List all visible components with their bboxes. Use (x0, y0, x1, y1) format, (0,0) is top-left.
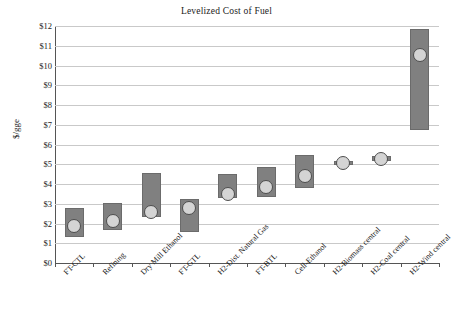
x-axis-tick (55, 263, 56, 267)
x-axis-tick (362, 263, 363, 267)
y-axis-tick-label: $1 (18, 239, 52, 248)
gridline (55, 85, 439, 86)
y-axis-tick-label: $5 (18, 160, 52, 169)
gridline (55, 184, 439, 185)
range-bar[interactable] (410, 29, 429, 130)
y-axis-tick-label: $9 (18, 81, 52, 90)
central-estimate-marker[interactable] (413, 48, 427, 62)
gridline (55, 243, 439, 244)
y-axis-tick-label: $12 (18, 22, 52, 31)
x-axis-tick (170, 263, 171, 267)
gridline (55, 66, 439, 67)
x-axis-tick (132, 263, 133, 267)
y-axis-tick-label: $7 (18, 121, 52, 130)
plot-area (55, 26, 439, 263)
y-axis-tick-label: $10 (18, 62, 52, 71)
x-axis-tick (93, 263, 94, 267)
y-axis-tick-label: $4 (18, 180, 52, 189)
gridline (55, 145, 439, 146)
chart-container: Levelized Cost of Fuel $/gge $12$11$10$9… (0, 0, 453, 335)
gridline (55, 26, 439, 27)
y-axis-tick-label: $6 (18, 141, 52, 150)
y-axis-tick-label: $2 (18, 220, 52, 229)
x-axis-tick (439, 263, 440, 267)
central-estimate-marker[interactable] (221, 187, 235, 201)
x-axis-tick (324, 263, 325, 267)
gridline (55, 125, 439, 126)
y-axis-tick-label: $8 (18, 101, 52, 110)
x-axis-ticks (55, 263, 439, 268)
y-axis-tick-label: $3 (18, 200, 52, 209)
central-estimate-marker[interactable] (298, 169, 312, 183)
central-estimate-marker[interactable] (106, 214, 120, 228)
chart-title: Levelized Cost of Fuel (0, 6, 453, 16)
x-axis-tick (247, 263, 248, 267)
y-axis-tick-label: $11 (18, 42, 52, 51)
y-axis-tick-labels: $12$11$10$9$8$7$6$5$4$3$2$1$0 (12, 26, 52, 263)
gridline (55, 46, 439, 47)
x-axis-tick (401, 263, 402, 267)
x-axis-tick (209, 263, 210, 267)
central-estimate-marker[interactable] (336, 156, 350, 170)
gridline (55, 105, 439, 106)
x-axis-tick (285, 263, 286, 267)
y-axis-tick-label: $0 (18, 259, 52, 268)
central-estimate-marker[interactable] (144, 205, 158, 219)
